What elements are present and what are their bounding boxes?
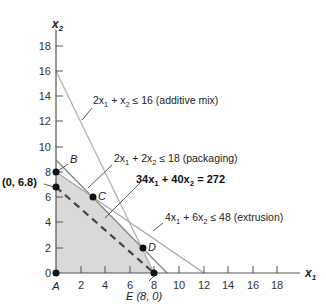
packaging-label: 2x1 + 2x2 ≤ 18 (packaging)	[114, 152, 238, 167]
label-C: C	[98, 190, 106, 202]
svg-text:16: 16	[39, 65, 51, 77]
lp-graph: 0 2 4 6 8 10 12 14 16 18 2 4 6 8 10 12 1…	[0, 0, 326, 308]
svg-text:16: 16	[247, 279, 259, 291]
extrusion-label: 4x1 + 6x2 ≤ 48 (extrusion)	[165, 211, 283, 226]
svg-text:0: 0	[45, 267, 51, 279]
svg-text:12: 12	[39, 115, 51, 127]
svg-text:18: 18	[271, 279, 283, 291]
label-B: B	[70, 153, 77, 165]
point-D	[140, 245, 147, 252]
x-tick-labels: 2 4 6 8 10 12 14 16 18	[78, 279, 283, 291]
y-axis-label: x2	[51, 17, 64, 33]
point-intercept	[53, 184, 60, 191]
objective-label: 34x1 + 40x2 = 272	[136, 173, 225, 188]
additive-mix-label: 2x1 + x2 ≤ 16 (additive mix)	[93, 94, 218, 109]
svg-text:4: 4	[102, 279, 108, 291]
svg-text:18: 18	[39, 40, 51, 52]
svg-text:12: 12	[198, 279, 210, 291]
feasible-region	[56, 172, 154, 273]
label-D: D	[148, 241, 156, 253]
svg-text:2: 2	[78, 279, 84, 291]
point-A	[53, 270, 60, 277]
label-E: E (8, 0)	[126, 290, 162, 302]
svg-text:14: 14	[222, 279, 234, 291]
svg-text:8: 8	[45, 166, 51, 178]
svg-text:6: 6	[45, 191, 51, 203]
label-intercept: (0, 6.8)	[2, 176, 37, 188]
point-B	[53, 169, 60, 176]
x-axis-label: x1	[304, 266, 317, 282]
point-E	[151, 270, 158, 277]
svg-text:2: 2	[45, 242, 51, 254]
svg-text:10: 10	[173, 279, 185, 291]
y-tick-labels: 0 2 4 6 8 10 12 14 16 18	[39, 40, 51, 279]
svg-text:4: 4	[45, 216, 51, 228]
point-C	[90, 194, 97, 201]
label-A: A	[51, 280, 59, 292]
svg-text:10: 10	[39, 141, 51, 153]
svg-text:14: 14	[39, 90, 51, 102]
